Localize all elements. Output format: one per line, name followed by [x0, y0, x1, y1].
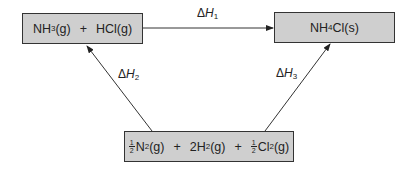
cl2-formula: Cl	[258, 140, 270, 154]
state: (g)	[149, 140, 164, 154]
fraction-half: 12	[251, 139, 257, 154]
subscript: 1	[214, 12, 218, 21]
label-dh2: ΔH2	[118, 67, 139, 81]
plus-sign: +	[173, 140, 180, 154]
product-box: NH4Cl(s)	[274, 12, 395, 43]
label-dh3: ΔH3	[276, 66, 297, 80]
nh3-formula: NH	[33, 22, 51, 36]
subscript: 2	[135, 73, 139, 82]
denominator: 2	[252, 147, 256, 154]
delta-symbol: Δ	[118, 67, 126, 81]
subscript: 3	[293, 72, 297, 81]
denominator: 2	[130, 147, 134, 154]
plus-sign: +	[80, 22, 87, 36]
h2-formula: 2H	[190, 140, 206, 154]
arrow-dh3	[265, 44, 330, 131]
numerator: 1	[129, 139, 135, 147]
nh4cl-formula: NH	[310, 21, 328, 35]
n2-formula: N	[136, 140, 145, 154]
plus-sign: +	[234, 140, 241, 154]
fraction-half: 12	[129, 139, 135, 154]
elements-box: 12N2(g) + 2H2(g) + 12Cl2(g)	[124, 131, 294, 162]
state: (g)	[55, 22, 70, 36]
formula-rest: Cl(s)	[333, 21, 359, 35]
hcl-formula: HCl(g)	[96, 22, 132, 36]
delta-symbol: Δ	[276, 66, 284, 80]
delta-symbol: Δ	[197, 6, 205, 20]
label-dh1: ΔH1	[197, 6, 218, 20]
enthalpy-var: H	[126, 67, 135, 81]
state: (g)	[274, 140, 289, 154]
numerator: 1	[251, 139, 257, 147]
enthalpy-var: H	[205, 6, 214, 20]
arrow-dh2	[87, 46, 152, 131]
state: (g)	[210, 140, 225, 154]
enthalpy-var: H	[284, 66, 293, 80]
reactants-box: NH3(g) + HCl(g)	[22, 13, 143, 44]
